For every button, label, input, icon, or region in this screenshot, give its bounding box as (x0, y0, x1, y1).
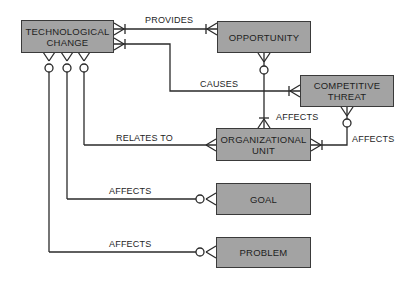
label-affects-threat-org: AFFECTS (352, 134, 394, 144)
problem-connector (43, 52, 216, 258)
entity-label: COMPETITIVE THREAT (314, 80, 381, 102)
entity-label: GOAL (250, 194, 277, 205)
label-affects-problem: AFFECTS (109, 239, 151, 249)
label-affects-opp-org: AFFECTS (276, 112, 318, 122)
entity-technological-change[interactable]: TECHNOLOGICAL CHANGE (21, 20, 114, 53)
entity-problem[interactable]: PROBLEM (216, 237, 311, 268)
entity-goal[interactable]: GOAL (216, 183, 311, 215)
entity-label-line2: UNIT (220, 145, 306, 156)
entity-label-line1: ORGANIZATIONAL (220, 134, 306, 145)
entity-organizational-unit[interactable]: ORGANIZATIONAL UNIT (216, 128, 311, 161)
entity-label: TECHNOLOGICAL CHANGE (26, 26, 110, 48)
label-relates-to: RELATES TO (116, 133, 173, 143)
entity-competitive-threat[interactable]: COMPETITIVE THREAT (300, 75, 394, 107)
entity-label-line2: CHANGE (26, 37, 110, 48)
entity-label: ORGANIZATIONAL UNIT (220, 134, 306, 156)
entity-label-line1: COMPETITIVE (314, 80, 381, 91)
entity-label: OPPORTUNITY (229, 32, 300, 43)
entity-opportunity[interactable]: OPPORTUNITY (217, 21, 311, 53)
entity-label-line1: TECHNOLOGICAL (26, 26, 110, 37)
label-affects-goal: AFFECTS (109, 186, 151, 196)
entity-label-line2: THREAT (314, 91, 381, 102)
label-provides: PROVIDES (145, 15, 193, 25)
entity-label: PROBLEM (240, 247, 288, 258)
er-diagram: TECHNOLOGICAL CHANGE OPPORTUNITY COMPETI… (0, 0, 412, 284)
label-causes: CAUSES (200, 79, 238, 89)
